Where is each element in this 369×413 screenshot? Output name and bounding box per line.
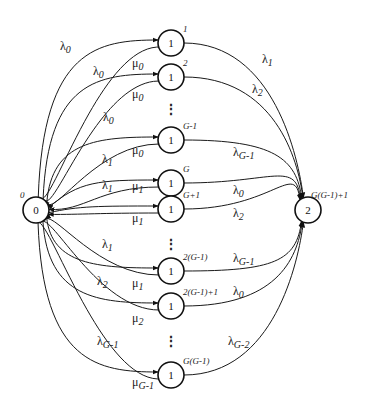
- nodes: 002G(G-1)+111121G-11G1G+112(G-1)12(G-1)+…: [20, 24, 348, 388]
- mu-edge: [41, 221, 159, 310]
- mu-label: μ1: [132, 179, 143, 195]
- state-index: G: [183, 164, 190, 174]
- lambda-label: λ1: [102, 178, 113, 194]
- ellipsis: ⋮: [164, 102, 178, 117]
- state-index: 0: [20, 190, 25, 200]
- right-lambda-label: λG-1: [233, 251, 254, 267]
- ellipsis: ⋮: [164, 237, 178, 252]
- right-lambda-label: λG-2: [228, 334, 249, 350]
- right-lambda-label: λ1: [262, 52, 273, 68]
- state-index: G(G-1): [183, 356, 210, 366]
- diagram-canvas: 002G(G-1)+111121G-11G1G+112(G-1)12(G-1)+…: [0, 0, 369, 413]
- state-index: 2: [183, 58, 188, 68]
- state-index: 2(G-1): [183, 252, 208, 262]
- ellipsis: ⋮: [164, 334, 178, 349]
- state-1-G-1: 1G-1: [158, 121, 197, 153]
- lambda-label: λ0: [60, 39, 71, 55]
- state-label: 1: [168, 37, 174, 49]
- mu-label: μ0: [132, 56, 143, 72]
- right-lambda-label: λ2: [233, 206, 244, 222]
- mu-label: μ0: [132, 87, 143, 103]
- state-label: 1: [168, 369, 174, 381]
- state-1-2(G-1)+1: 12(G-1)+1: [158, 287, 218, 319]
- state-index: 1: [183, 24, 188, 34]
- lambda-label: λ1: [102, 152, 113, 168]
- state-label: 1: [168, 203, 174, 215]
- lambda-label: λ0: [93, 64, 104, 80]
- right-lambda-label: λG-1: [233, 145, 254, 161]
- lambda-label: λ1: [102, 237, 113, 253]
- right-lambda-label: λ0: [233, 183, 244, 199]
- state-0: 00: [20, 190, 49, 223]
- right-lambda-edge: [184, 43, 303, 198]
- lambda-edge: [49, 206, 158, 213]
- state-index: G-1: [183, 121, 197, 131]
- state-label: 1: [168, 134, 174, 146]
- lambda-label: λ2: [97, 274, 108, 290]
- state-label: 2: [305, 204, 311, 216]
- mu-edge: [36, 222, 159, 379]
- state-1-1: 11: [158, 24, 188, 56]
- state-1-2(G-1): 12(G-1): [158, 252, 208, 284]
- mu-edge: [48, 213, 159, 214]
- state-1-2: 12: [158, 58, 188, 90]
- state-label: 0: [33, 204, 39, 216]
- state-1-G(G-1): 1G(G-1): [158, 356, 210, 388]
- right-lambda-label: λ2: [252, 82, 263, 98]
- state-index: 2(G-1)+1: [183, 287, 218, 297]
- right-lambda-label: λ0: [233, 284, 244, 300]
- state-index: G+1: [183, 190, 200, 200]
- mu-label: μ1: [132, 276, 143, 292]
- lambda-label: λ0: [103, 110, 114, 126]
- lambda-label: λG-1: [97, 334, 118, 350]
- state-index: G(G-1)+1: [311, 190, 348, 200]
- state-label: 1: [168, 265, 174, 277]
- state-label: 1: [168, 71, 174, 83]
- state-diagram: 002G(G-1)+111121G-11G1G+112(G-1)12(G-1)+…: [0, 0, 369, 413]
- state-label: 1: [168, 300, 174, 312]
- mu-label: μ2: [132, 311, 143, 327]
- state-label: 1: [168, 177, 174, 189]
